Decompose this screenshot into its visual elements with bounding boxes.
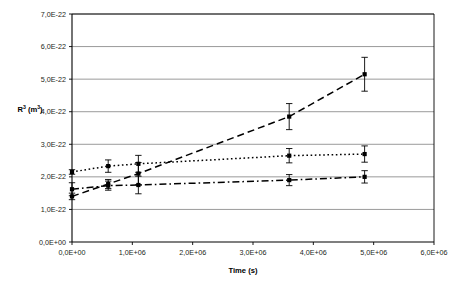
data-point-marker bbox=[363, 175, 367, 179]
x-tick-label: 0,0E+00 bbox=[59, 248, 86, 257]
data-point-marker bbox=[287, 178, 291, 182]
data-point-marker bbox=[70, 170, 74, 174]
data-point-marker bbox=[363, 152, 367, 156]
data-point-marker bbox=[287, 154, 291, 158]
chart-container: 0,0E+001,0E-222,0E-223,0E-224,0E-225,0E-… bbox=[0, 0, 452, 284]
plot-area-background bbox=[72, 14, 434, 242]
y-tick-label: 2,0E-22 bbox=[41, 172, 66, 181]
y-tick-label: 7,0E-22 bbox=[41, 10, 66, 19]
data-point-marker bbox=[136, 183, 140, 187]
data-point-marker bbox=[106, 164, 110, 168]
x-tick-label: 6,0E+06 bbox=[421, 248, 448, 257]
x-tick-label: 2,0E+06 bbox=[179, 248, 206, 257]
y-tick-label: 1,0E-22 bbox=[41, 205, 66, 214]
x-tick-label: 3,0E+06 bbox=[240, 248, 267, 257]
data-point-marker bbox=[106, 184, 110, 188]
x-tick-label: 1,0E+06 bbox=[119, 248, 146, 257]
y-tick-label: 0,0E+00 bbox=[39, 238, 66, 247]
data-point-marker bbox=[70, 187, 74, 191]
y-tick-label: 5,0E-22 bbox=[41, 75, 66, 84]
y-tick-label: 3,0E-22 bbox=[41, 140, 66, 149]
x-axis-title: Time (s) bbox=[229, 266, 258, 275]
data-point-marker bbox=[136, 162, 140, 166]
y-axis-title: R3 (m3) bbox=[17, 104, 43, 114]
scatter-line-chart: 0,0E+001,0E-222,0E-223,0E-224,0E-225,0E-… bbox=[0, 0, 452, 284]
data-point-marker bbox=[363, 72, 367, 76]
y-tick-label: 6,0E-22 bbox=[41, 42, 66, 51]
data-point-marker bbox=[287, 115, 291, 119]
x-tick-label: 5,0E+06 bbox=[360, 248, 387, 257]
y-tick-label: 4,0E-22 bbox=[41, 107, 66, 116]
x-tick-label: 4,0E+06 bbox=[300, 248, 327, 257]
